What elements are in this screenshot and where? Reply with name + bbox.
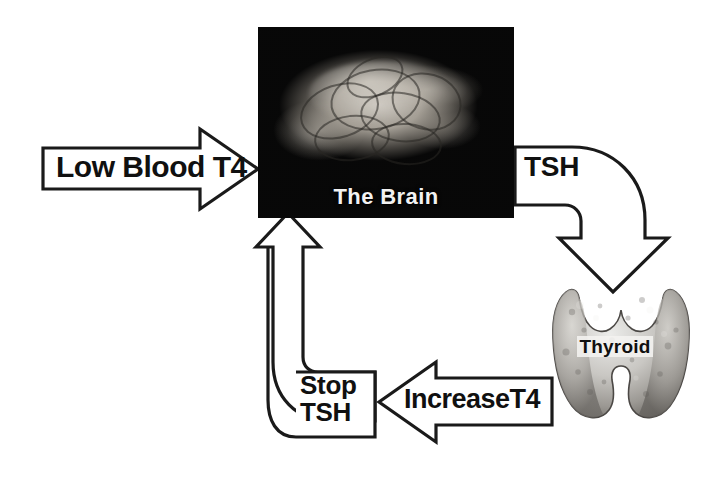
arrow-label-stop-tsh: Stop TSH (300, 372, 357, 427)
brain-label: The Brain (258, 184, 514, 210)
diagram-canvas: The Brain Thyroid Low Blood T4 TSH Incre… (0, 0, 714, 486)
arrow-label-stop-tsh-line1: Stop (300, 370, 357, 400)
thyroid-label: Thyroid (551, 336, 679, 358)
brain-image-panel: The Brain (258, 27, 514, 218)
arrow-label-low-blood-t4: Low Blood T4 (56, 151, 247, 183)
arrow-label-tsh: TSH (524, 152, 579, 181)
arrow-label-stop-tsh-line2: TSH (300, 399, 357, 426)
thyroid-label-text: Thyroid (577, 336, 652, 357)
arrow-label-increase-t4: IncreaseT4 (404, 385, 540, 413)
thyroid-image: Thyroid (551, 284, 679, 422)
